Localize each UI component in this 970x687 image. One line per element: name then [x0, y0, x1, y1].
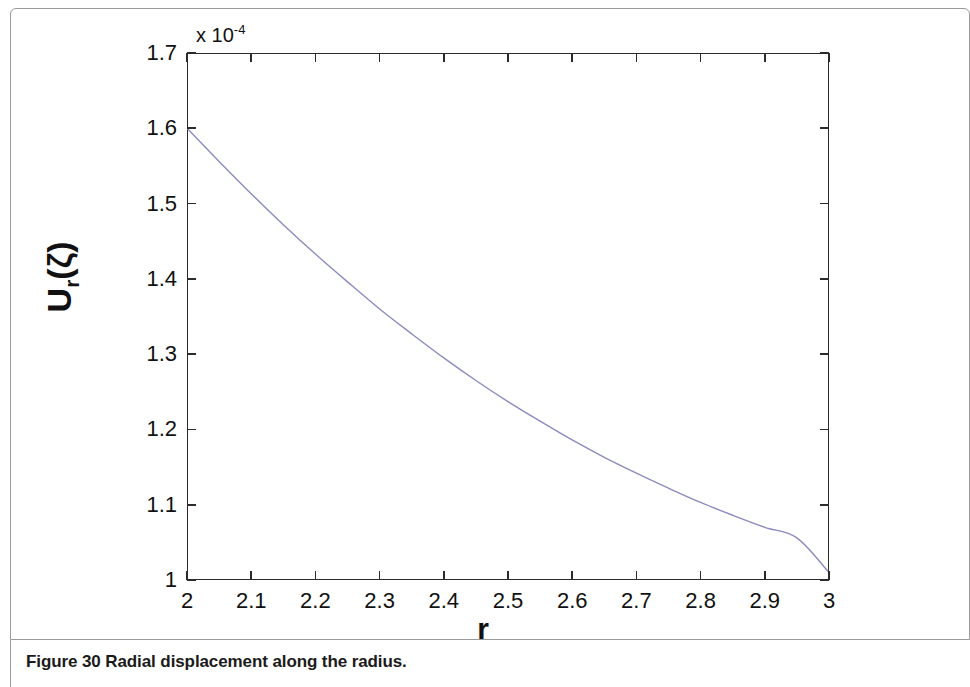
x-tick-top [700, 53, 702, 62]
x-tick-label: 2.4 [429, 588, 460, 614]
x-tick-bottom [636, 571, 638, 580]
x-tick-label: 2.1 [236, 588, 267, 614]
y-tick-left [187, 52, 196, 54]
y-tick-label: 1.2 [91, 416, 177, 442]
x-tick-top [315, 53, 317, 62]
y-tick-label: 1.5 [91, 191, 177, 217]
figure-left-rule [10, 640, 11, 687]
x-tick-top [571, 53, 573, 62]
x-tick-label: 2.6 [557, 588, 588, 614]
y-tick-label: 1.6 [91, 115, 177, 141]
x-tick-top [186, 53, 188, 62]
x-tick-top [764, 53, 766, 62]
x-tick-top [443, 53, 445, 62]
x-tick-top [379, 53, 381, 62]
x-tick-label: 2.9 [750, 588, 781, 614]
x-axis-title-text: r [477, 612, 489, 645]
y-tick-right [820, 203, 829, 205]
x-tick-label: 2 [181, 588, 193, 614]
y-axis-title-subscript: r [60, 280, 83, 288]
x-tick-top [507, 53, 509, 62]
x-tick-top [828, 53, 830, 62]
y-axis-title-base: U [40, 288, 78, 313]
y-tick-right [820, 579, 829, 581]
y-tick-left [187, 353, 196, 355]
x-tick-bottom [443, 571, 445, 580]
y-tick-label: 1.1 [91, 492, 177, 518]
y-axis-title: Ur(ζ) [40, 177, 84, 377]
y-tick-right [820, 127, 829, 129]
x-tick-bottom [379, 571, 381, 580]
y-tick-left [187, 504, 196, 506]
x-tick-bottom [764, 571, 766, 580]
x-axis-title: r [0, 612, 916, 646]
x-tick-label: 2.5 [493, 588, 524, 614]
y-tick-left [187, 127, 196, 129]
y-tick-right [820, 353, 829, 355]
x-tick-bottom [507, 571, 509, 580]
y-axis-multiplier-exponent: -4 [234, 22, 246, 37]
x-tick-label: 2.7 [621, 588, 652, 614]
chart-curve-svg [187, 53, 829, 580]
radial-displacement-curve [187, 128, 829, 572]
y-axis-multiplier-label: x 10-4 [196, 22, 245, 47]
y-tick-left [187, 429, 196, 431]
y-tick-right [820, 52, 829, 54]
x-tick-label: 3 [823, 588, 835, 614]
chart-plot-area: x 10-4 22.12.22.32.42.52.62.72.82.93 11.… [0, 0, 916, 640]
y-tick-label: 1.3 [91, 341, 177, 367]
y-tick-left [187, 278, 196, 280]
y-tick-left [187, 203, 196, 205]
x-tick-top [250, 53, 252, 62]
y-axis-title-argument: (ζ) [40, 241, 78, 279]
x-tick-top [636, 53, 638, 62]
x-tick-label: 2.2 [300, 588, 331, 614]
x-tick-label: 2.3 [364, 588, 395, 614]
y-tick-label: 1.7 [91, 40, 177, 66]
y-axis-multiplier-text: x 10 [196, 24, 234, 46]
figure-caption: Figure 30 Radial displacement along the … [26, 652, 407, 672]
x-tick-label: 2.8 [685, 588, 716, 614]
y-tick-right [820, 504, 829, 506]
y-tick-label: 1.4 [91, 266, 177, 292]
y-tick-right [820, 278, 829, 280]
x-tick-bottom [700, 571, 702, 580]
x-tick-bottom [250, 571, 252, 580]
x-tick-bottom [315, 571, 317, 580]
x-tick-bottom [571, 571, 573, 580]
y-tick-left [187, 579, 196, 581]
y-tick-right [820, 429, 829, 431]
y-tick-label: 1 [91, 567, 177, 593]
